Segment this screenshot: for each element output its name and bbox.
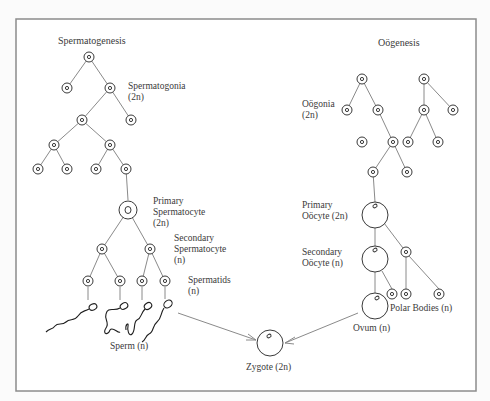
cell-icon [368,167,378,177]
primary-oocyte-icon [362,202,388,228]
cell-icon [126,115,136,125]
cell-icon [105,140,115,150]
cell-icon [121,164,131,174]
cell-icon [115,276,125,286]
polar-bodies-label: Polar Bodies (n) [390,303,452,314]
oogonia-ploidy: (2n) [302,110,318,121]
diagram-frame [16,19,476,391]
primary-spermatocyte-label-1: Primary [153,196,184,206]
cell-icon [33,164,43,174]
gametogenesis-diagram: Spermatogenesis Spermatogonia (2n) Prima… [0,0,490,401]
polar-body-icon [401,289,411,299]
cell-icon [49,140,59,150]
cell-icon [84,52,94,62]
secondary-spermatocyte-label-1: Secondary [174,233,214,243]
sperm-label: Sperm (n) [110,341,148,352]
oogenesis-title: Oögenesis [378,37,420,48]
cell-icon [448,105,458,115]
cell-icon [160,276,170,286]
secondary-spermatocyte-label-2: Spermatocyte [174,244,226,254]
cell-icon [62,83,72,93]
cell-icon [357,74,367,84]
cell-icon [403,137,413,147]
oocyte-cells [362,202,388,319]
cell-icon [62,164,72,174]
cell-icon [402,167,412,177]
primary-spermatocyte-label-2: Spermatocyte [153,207,205,217]
ovum-icon [362,293,388,319]
cell-icon [83,276,93,286]
spermatogonia-ploidy: (2n) [128,92,144,103]
cell-icon [419,74,429,84]
spermatids-ploidy: (n) [188,286,199,297]
secondary-oocyte-label-2: Oöcyte (n) [302,258,343,269]
polar-body-icon [434,289,444,299]
primary-spermatocyte-ploidy: (2n) [153,218,169,229]
polar-body-icon [401,247,411,257]
cell-icon [105,83,115,93]
cell-icon [91,164,101,174]
cell-icon [419,105,429,115]
zygote-cell-icon [257,330,283,356]
cell-icon [433,137,443,147]
secondary-spermatocyte-ploidy: (n) [174,255,185,266]
primary-oocyte-label-1: Primary [302,200,333,210]
zygote-label: Zygote (2n) [246,362,291,373]
primary-spermatocyte-cell-icon [119,201,137,219]
cell-icon [388,137,398,147]
cell-icon [357,137,367,147]
cell-icon [145,244,155,254]
secondary-oocyte-label-1: Secondary [302,247,342,257]
ovum-label: Ovum (n) [353,323,390,334]
oogonia-label: Oögonia [302,99,336,109]
cell-icon [342,105,352,115]
cell-icon [97,244,107,254]
spermatids-label: Spermatids [188,275,231,285]
spermatogenesis-title: Spermatogenesis [58,35,126,46]
cell-icon [373,105,383,115]
primary-oocyte-label-2: Oöcyte (2n) [302,211,348,222]
spermatogonia-label: Spermatogonia [128,81,186,91]
secondary-oocyte-icon [362,246,388,272]
polar-body-icon [387,289,397,299]
cell-icon [137,276,147,286]
cell-icon [77,115,87,125]
